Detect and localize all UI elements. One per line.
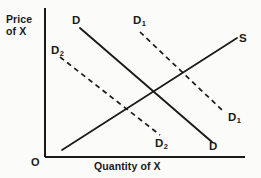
demand-curve-d1-end-label: D1 (228, 111, 241, 124)
demand-curve-top-label-text: D (72, 14, 80, 26)
demand-curve-d1-top-label: D1 (133, 14, 146, 27)
demand-curve-d1 (140, 32, 222, 110)
y-axis-label-line2: of X (6, 26, 32, 38)
demand-curve-d1-end-label-subscript: 1 (236, 116, 241, 125)
supply-curve (62, 38, 237, 150)
supply-curve-label: S (239, 32, 247, 45)
y-axis-label: Price of X (6, 14, 32, 38)
demand-curve-d2-end-label-subscript: 2 (163, 142, 168, 151)
supply-demand-figure: Price of X Quantity of X O D D1 S D2 D1 … (0, 0, 261, 178)
demand-curve-top-label: D (72, 14, 80, 27)
x-axis-label: Quantity of X (94, 161, 161, 173)
demand-curve-end-label-text: D (209, 140, 217, 152)
supply-curve-label-text: S (239, 32, 247, 44)
demand-curve-end-label: D (209, 140, 217, 153)
demand-curve-d2-top-label: D2 (51, 44, 64, 57)
diagram-canvas (0, 0, 261, 178)
origin-label: O (31, 156, 40, 168)
demand-curve-d1-top-label-subscript: 1 (141, 19, 146, 28)
y-axis-label-line1: Price (6, 14, 32, 26)
demand-curve-d2-top-label-subscript: 2 (59, 49, 64, 58)
demand-curve-d2-end-label: D2 (155, 137, 168, 150)
